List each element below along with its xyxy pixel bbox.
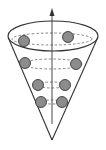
sphere-5 (33, 80, 44, 91)
sphere-8 (57, 97, 68, 108)
vertical-axis-arrow (50, 8, 55, 124)
cone-left-edge (8, 37, 52, 140)
sphere-3 (20, 58, 31, 69)
sphere-7 (36, 97, 47, 108)
sphere-2 (63, 32, 74, 43)
cone-diagram (0, 0, 106, 150)
arrow-up-icon (50, 8, 55, 16)
sphere-4 (71, 59, 82, 70)
sphere-6 (60, 80, 71, 91)
cone-right-edge (52, 37, 98, 140)
sphere-1 (19, 36, 30, 47)
cone-diagram-svg (0, 0, 106, 150)
